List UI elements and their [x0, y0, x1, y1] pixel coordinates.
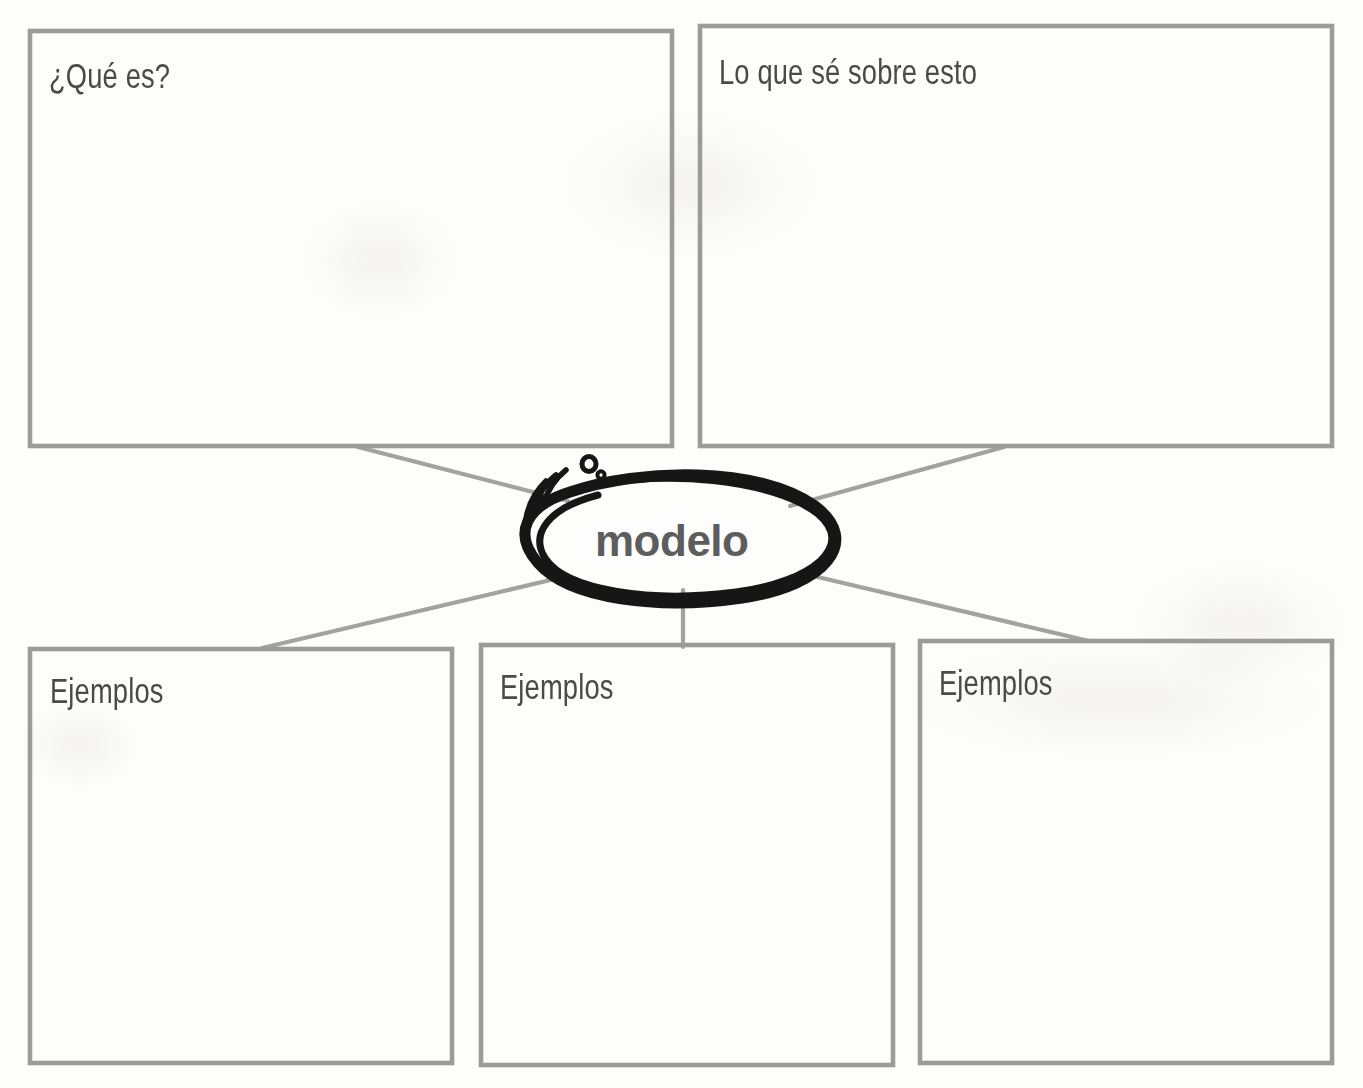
box-ejemplos-2[interactable]: [481, 645, 893, 1065]
box-label-lo-que-se: Lo que sé sobre esto: [719, 54, 977, 89]
connector-bottom-right: [805, 574, 1089, 641]
bubble-small-icon: [597, 471, 604, 479]
box-ejemplos-1[interactable]: [30, 649, 452, 1063]
box-ejemplos-3[interactable]: [920, 641, 1332, 1063]
center-term-label: modelo: [595, 519, 748, 563]
connector-top-right: [790, 447, 1004, 506]
worksheet-page: ¿Qué es? Lo que sé sobre esto Ejemplos E…: [0, 0, 1363, 1088]
box-label-ejemplos-2: Ejemplos: [500, 669, 614, 704]
bubble-large-icon: [582, 457, 596, 472]
connector-bottom-left: [262, 578, 559, 648]
box-label-que-es: ¿Qué es?: [49, 58, 170, 93]
box-label-ejemplos-3: Ejemplos: [939, 665, 1053, 700]
box-label-ejemplos-1: Ejemplos: [50, 673, 164, 708]
